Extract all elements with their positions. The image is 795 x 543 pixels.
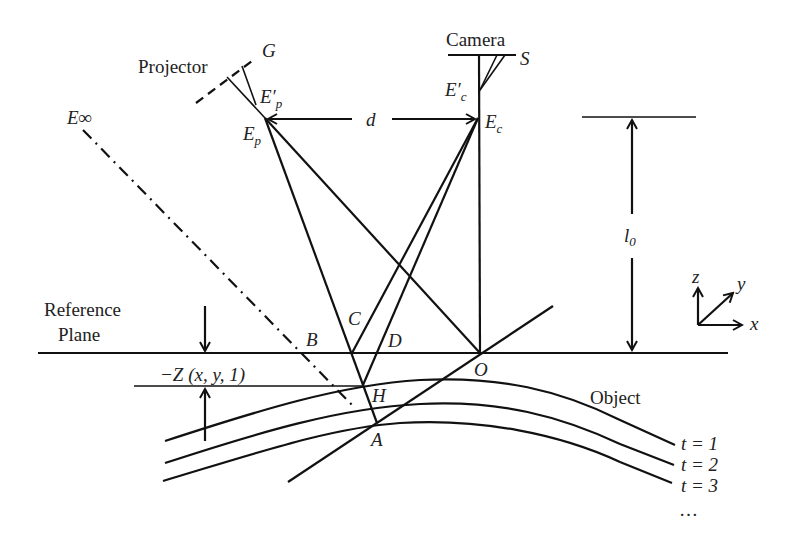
projector-label: Projector xyxy=(138,56,208,77)
label-ec-prime: E′c xyxy=(444,79,467,104)
axis-x-label: x xyxy=(749,313,759,334)
axis-y-label: y xyxy=(735,273,746,294)
label-e-infinity: E∞ xyxy=(66,107,92,128)
time-step-ellipsis: … xyxy=(679,499,698,520)
object-surface-t2 xyxy=(165,403,674,465)
depth-label: −Z (x, y, 1) xyxy=(160,364,245,386)
ray-ec-to-c xyxy=(352,118,478,353)
time-step-3: t = 3 xyxy=(681,475,718,496)
camera-label: Camera xyxy=(446,29,506,50)
reference-label-1: Reference xyxy=(44,299,121,320)
coordinate-axes xyxy=(698,288,742,325)
ray-ec-to-h xyxy=(363,118,478,385)
ray-ep-to-a xyxy=(265,118,377,423)
time-step-1: t = 1 xyxy=(681,433,718,454)
projector-ray-2 xyxy=(242,66,256,105)
camera-ray-2 xyxy=(480,55,505,90)
label-ec: Ec xyxy=(484,111,503,136)
time-step-2: t = 2 xyxy=(681,454,719,475)
object-label: Object xyxy=(590,387,641,408)
object-surface-t3 xyxy=(163,422,672,483)
label-ep: Ep xyxy=(242,123,262,148)
label-d-point: D xyxy=(387,330,402,351)
label-a: A xyxy=(369,429,383,450)
label-g: G xyxy=(262,40,276,61)
label-o: O xyxy=(474,359,488,380)
label-c: C xyxy=(348,308,361,329)
ray-ep-to-o xyxy=(265,118,480,353)
label-b: B xyxy=(306,329,318,350)
axis-z-label: z xyxy=(691,266,700,287)
reference-label-2: Plane xyxy=(58,324,100,345)
camera-optical-axis xyxy=(479,55,480,353)
label-l0: l0 xyxy=(624,225,636,249)
label-s: S xyxy=(520,48,530,69)
structured-light-diagram: Projector G Camera S E∞ E′p Ep E′c Ec d … xyxy=(0,0,795,543)
label-h: H xyxy=(371,385,387,406)
label-ep-prime: E′p xyxy=(259,86,283,111)
label-d: d xyxy=(366,109,376,130)
